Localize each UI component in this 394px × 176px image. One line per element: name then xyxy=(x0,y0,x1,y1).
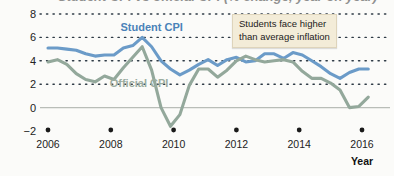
y-tick-label-6: 6 xyxy=(30,31,36,43)
x-tick-label-2010: 2010 xyxy=(162,138,186,150)
y-tick-label-0: 0 xyxy=(30,102,36,114)
x-tick-mark-2008 xyxy=(108,128,113,133)
y-tick-label-2: 2 xyxy=(30,78,36,90)
annotation-students-face-higher-inflation: Students face higher than average inflat… xyxy=(232,14,337,48)
x-tick-marks-group xyxy=(46,128,365,133)
x-tick-mark-2006 xyxy=(46,128,51,133)
y-tick-label-8: 8 xyxy=(30,8,36,20)
series-label-official-cpi: Official CPI xyxy=(110,77,169,89)
x-tick-labels-group: 200620082010201220142016 xyxy=(36,138,374,150)
annotation-line-2: than average inflation xyxy=(239,31,330,44)
chart-container: Student CPI vs official CPI (% change, y… xyxy=(0,0,394,176)
x-tick-mark-2016 xyxy=(360,128,365,133)
x-tick-label-2014: 2014 xyxy=(288,138,312,150)
x-axis-name-group: Year xyxy=(351,155,373,167)
series-label-student-cpi: Student CPI xyxy=(120,21,182,33)
x-tick-label-2012: 2012 xyxy=(225,138,249,150)
x-tick-label-2016: 2016 xyxy=(350,138,374,150)
y-tick-label-minus2: −2 xyxy=(23,125,36,137)
x-tick-mark-2010 xyxy=(171,128,176,133)
x-tick-label-2008: 2008 xyxy=(99,138,123,150)
series-lines-group xyxy=(48,37,368,126)
x-tick-mark-2014 xyxy=(297,128,302,133)
y-tick-labels-group: −202468 xyxy=(23,8,36,137)
x-tick-label-2006: 2006 xyxy=(36,138,60,150)
x-axis-name: Year xyxy=(351,155,373,167)
annotation-line-1: Students face higher xyxy=(239,18,330,31)
y-tick-label-4: 4 xyxy=(30,55,36,67)
x-tick-mark-2012 xyxy=(234,128,239,133)
